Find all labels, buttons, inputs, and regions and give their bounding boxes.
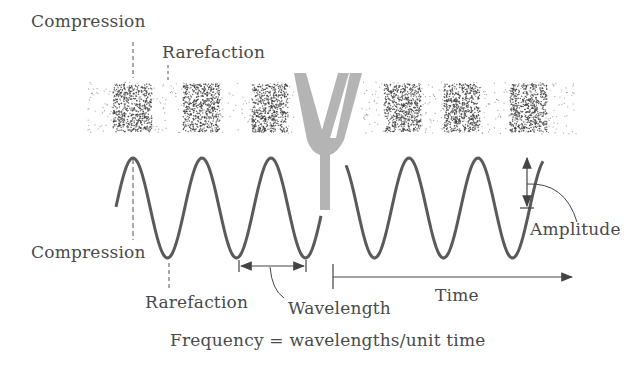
pressure-wave-left	[116, 158, 321, 258]
compression-label-top: Compression	[31, 11, 146, 31]
frequency-formula: Frequency = wavelengths/unit time	[170, 330, 486, 350]
pressure-wave-right	[346, 158, 543, 258]
rarefaction-label-top: Rarefaction	[162, 42, 265, 62]
wavelength-marker	[239, 260, 306, 298]
sound-wave-diagram: Compression Rarefaction Compression Rare…	[0, 0, 641, 370]
amplitude-label: Amplitude	[530, 219, 621, 239]
wavelength-label: Wavelength	[288, 298, 391, 318]
time-label: Time	[435, 285, 479, 305]
rarefaction-label-bottom: Rarefaction	[145, 292, 248, 312]
compression-label-bottom: Compression	[31, 242, 146, 262]
